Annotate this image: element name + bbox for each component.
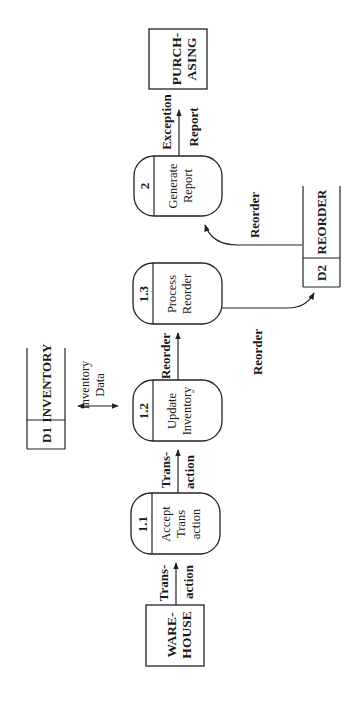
process-number: 1.3 bbox=[136, 285, 151, 302]
process-label-line2: Inventory bbox=[180, 386, 194, 435]
data-store-d2-reorder: D2 REORDER bbox=[303, 186, 340, 287]
process-label-line3: action bbox=[189, 508, 203, 539]
flow-label-reorder: Reorder bbox=[158, 333, 173, 379]
curved-arrow-icon bbox=[222, 293, 314, 308]
external-entity-warehouse: WARE- HOUSE bbox=[146, 605, 204, 666]
flow-label-reorder: Reorder bbox=[250, 329, 265, 375]
process-2-generate-report: 2 Generate Report bbox=[134, 156, 222, 216]
process-label-line2: Report bbox=[181, 168, 195, 203]
external-entity-purchasing: PURCH- ASING bbox=[149, 29, 207, 89]
flow-label-data: Data bbox=[93, 373, 107, 397]
flow-label-trans: Trans- bbox=[156, 565, 171, 602]
process-1-1-accept-transaction: 1.1 Accept Trans action bbox=[131, 493, 220, 554]
process-label-line1: Update bbox=[165, 393, 179, 430]
flow-label-inventory: Inventory bbox=[78, 360, 92, 409]
flow-warehouse-to-p1-1: Trans- action bbox=[156, 563, 196, 605]
process-label-line1: Accept bbox=[159, 506, 173, 542]
process-1-2-update-inventory: 1.2 Update Inventory bbox=[133, 380, 222, 441]
process-label-line2: Trans bbox=[174, 510, 188, 538]
flow-p1-3-to-d2: Reorder bbox=[222, 293, 314, 375]
flow-label-reorder: Reorder bbox=[247, 192, 262, 238]
warehouse-label-line1: WARE- bbox=[164, 612, 179, 657]
flow-label-action: action bbox=[181, 564, 196, 599]
flow-label-trans: Trans- bbox=[158, 452, 173, 489]
store-code: D1 bbox=[39, 427, 54, 443]
store-code: D2 bbox=[314, 265, 329, 281]
store-name: REORDER bbox=[314, 189, 329, 255]
flow-label-exception: Exception bbox=[159, 93, 174, 149]
process-label-line1: Process bbox=[165, 275, 179, 313]
warehouse-label-line2: HOUSE bbox=[179, 611, 194, 658]
flow-p1-1-to-p1-2: Trans- action bbox=[158, 450, 197, 493]
purchasing-label-line1: PURCH- bbox=[169, 33, 184, 86]
store-name: INVENTORY bbox=[39, 343, 54, 422]
data-flow-diagram: PURCH- ASING Exception Report 2 Generate… bbox=[0, 0, 359, 722]
data-store-d1-inventory: D1 INVENTORY bbox=[27, 343, 65, 449]
flow-label-report: Report bbox=[186, 107, 201, 147]
process-number: 2 bbox=[137, 183, 152, 190]
flow-label-action: action bbox=[182, 454, 197, 489]
process-number: 1.2 bbox=[136, 403, 151, 419]
process-label-line1: Generate bbox=[166, 163, 180, 209]
process-1-3-process-reorder: 1.3 Process Reorder bbox=[133, 263, 222, 324]
process-number: 1.1 bbox=[135, 516, 150, 532]
purchasing-label-line2: ASING bbox=[184, 37, 199, 80]
process-label-line2: Reorder bbox=[180, 273, 194, 314]
flow-d1-p1-2: Inventory Data bbox=[78, 360, 118, 409]
flow-exception-report: Exception Report bbox=[159, 93, 201, 156]
flow-p1-2-to-p1-3: Reorder bbox=[158, 333, 178, 380]
